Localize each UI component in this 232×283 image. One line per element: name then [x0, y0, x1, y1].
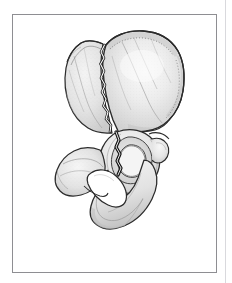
- ischial-spine: [152, 138, 169, 163]
- illustration-stage: [0, 0, 232, 283]
- hip-bone-group: [55, 31, 184, 229]
- hip-bone-illustration: [0, 0, 232, 283]
- ischial-spine-region: [149, 133, 169, 163]
- iliac-wing-main: [103, 31, 184, 133]
- figure-root: [0, 0, 232, 283]
